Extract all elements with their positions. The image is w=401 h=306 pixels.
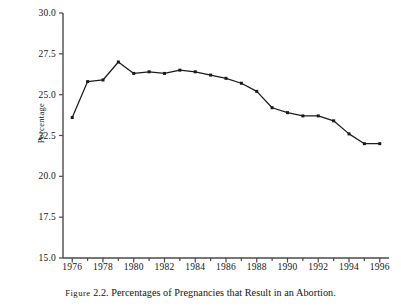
figure-container: 30.027.525.022.520.017.515.0 Percentage … (0, 0, 401, 306)
data-point (194, 70, 197, 73)
data-point (271, 106, 274, 109)
data-point (225, 77, 228, 80)
caption-prefix: Figure (65, 288, 90, 298)
data-point (317, 114, 320, 117)
data-point (363, 142, 366, 145)
x-axis-tick-label: 1976 (62, 262, 82, 272)
x-axis-tick-label: 1996 (370, 262, 390, 272)
data-point (178, 69, 181, 72)
x-axis-tick-label: 1984 (185, 262, 205, 272)
data-point (378, 142, 381, 145)
axis-lines (63, 13, 389, 258)
data-point (71, 116, 74, 119)
data-point (86, 80, 89, 83)
data-point (301, 114, 304, 117)
x-axis-tick-label: 1992 (308, 262, 328, 272)
figure-caption: Figure 2.2. Percentages of Pregnancies t… (0, 287, 401, 298)
x-axis-tick-label: 1986 (216, 262, 236, 272)
data-point (148, 70, 151, 73)
data-point (132, 72, 135, 75)
x-axis-tick-label: 1980 (124, 262, 144, 272)
x-axis-tick-label: 1988 (247, 262, 267, 272)
caption-number: 2.2. (93, 287, 108, 298)
data-point-markers (71, 61, 382, 146)
caption-text: Percentages of Pregnancies that Result i… (111, 287, 336, 298)
x-axis-tick-label: 1990 (278, 262, 298, 272)
data-point (255, 90, 258, 93)
x-axis-tick-label: 1982 (155, 262, 175, 272)
data-point (209, 74, 212, 77)
data-point (240, 82, 243, 85)
x-axis-tick-labels: 1976197819801982198419861988199019921994… (0, 262, 401, 280)
data-series-abortion-percentage (71, 61, 382, 146)
data-point (332, 119, 335, 122)
data-point (101, 78, 104, 81)
data-point (348, 132, 351, 135)
x-axis-tick-label: 1994 (339, 262, 359, 272)
chart-canvas (0, 0, 401, 306)
x-axis-tick-label: 1978 (93, 262, 113, 272)
data-point (117, 61, 120, 64)
data-point (286, 111, 289, 114)
data-point (163, 72, 166, 75)
